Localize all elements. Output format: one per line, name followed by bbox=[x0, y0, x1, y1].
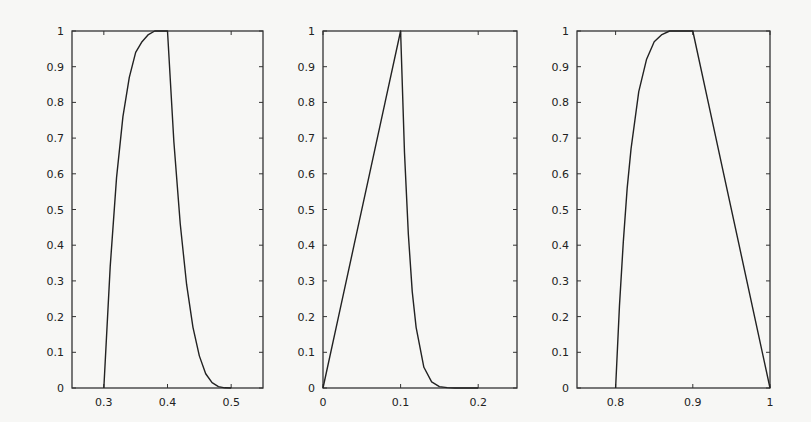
chart-panel-3: 00.10.20.30.40.50.60.70.80.910.80.91 bbox=[552, 25, 774, 409]
y-tick-label: 0 bbox=[308, 382, 315, 395]
chart-panel-2: 00.10.20.30.40.50.60.70.80.9100.10.2 bbox=[298, 25, 518, 409]
chart-figure: 00.10.20.30.40.50.60.70.80.910.30.40.5 0… bbox=[0, 0, 811, 422]
y-tick-label: 0.9 bbox=[47, 61, 65, 74]
y-tick-label: 0.9 bbox=[552, 61, 570, 74]
y-tick-label: 1 bbox=[57, 25, 64, 38]
y-tick-label: 0.6 bbox=[552, 168, 570, 181]
y-tick-label: 0.3 bbox=[47, 275, 65, 288]
y-tick-label: 0.8 bbox=[552, 96, 570, 109]
membership-curve bbox=[323, 31, 478, 388]
y-tick-label: 0.2 bbox=[298, 311, 316, 324]
y-tick-label: 1 bbox=[562, 25, 569, 38]
y-tick-label: 0.8 bbox=[298, 96, 316, 109]
chart-panel-1: 00.10.20.30.40.50.60.70.80.910.30.40.5 bbox=[47, 25, 264, 409]
figure: 00.10.20.30.40.50.60.70.80.910.30.40.5 0… bbox=[0, 0, 811, 422]
y-tick-label: 0.1 bbox=[552, 346, 570, 359]
axes-box bbox=[577, 31, 770, 388]
x-tick-label: 0.2 bbox=[469, 396, 487, 409]
y-tick-label: 0.7 bbox=[47, 132, 65, 145]
y-tick-label: 0.1 bbox=[298, 346, 316, 359]
x-tick-label: 0.5 bbox=[222, 396, 240, 409]
y-tick-label: 0.3 bbox=[298, 275, 316, 288]
x-tick-label: 0.1 bbox=[392, 396, 410, 409]
y-tick-label: 0 bbox=[57, 382, 64, 395]
y-tick-label: 0.4 bbox=[552, 239, 570, 252]
membership-curve bbox=[616, 31, 770, 388]
x-tick-label: 0.8 bbox=[607, 396, 625, 409]
x-tick-label: 0.4 bbox=[159, 396, 177, 409]
axes-box bbox=[323, 31, 517, 388]
y-tick-label: 0.5 bbox=[298, 204, 316, 217]
membership-curve bbox=[104, 31, 231, 388]
y-tick-label: 1 bbox=[308, 25, 315, 38]
y-tick-label: 0.6 bbox=[298, 168, 316, 181]
y-tick-label: 0.7 bbox=[298, 132, 316, 145]
y-tick-label: 0.5 bbox=[552, 204, 570, 217]
y-tick-label: 0.4 bbox=[298, 239, 316, 252]
y-tick-label: 0.6 bbox=[47, 168, 65, 181]
axes-box bbox=[72, 31, 263, 388]
y-tick-label: 0.2 bbox=[552, 311, 570, 324]
y-tick-label: 0.4 bbox=[47, 239, 65, 252]
x-tick-label: 0 bbox=[320, 396, 327, 409]
y-tick-label: 0.8 bbox=[47, 96, 65, 109]
y-tick-label: 0.7 bbox=[552, 132, 570, 145]
y-tick-label: 0.1 bbox=[47, 346, 65, 359]
y-tick-label: 0.3 bbox=[552, 275, 570, 288]
y-tick-label: 0 bbox=[562, 382, 569, 395]
y-tick-label: 0.2 bbox=[47, 311, 65, 324]
y-tick-label: 0.5 bbox=[47, 204, 65, 217]
x-tick-label: 1 bbox=[767, 396, 774, 409]
x-tick-label: 0.3 bbox=[95, 396, 113, 409]
x-tick-label: 0.9 bbox=[684, 396, 702, 409]
y-tick-label: 0.9 bbox=[298, 61, 316, 74]
